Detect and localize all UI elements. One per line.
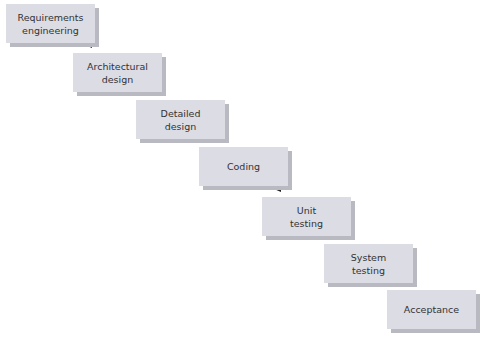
- stage-label: Unit testing: [290, 204, 323, 230]
- stage-box: Requirements engineering: [6, 4, 95, 43]
- stage-box: Architectural design: [73, 53, 162, 92]
- stage-label: Architectural design: [87, 60, 148, 86]
- stage-label: Requirements engineering: [17, 11, 83, 37]
- stage-label: Detailed design: [161, 107, 201, 133]
- stage-box: Detailed design: [136, 100, 225, 139]
- stage-label: Coding: [227, 160, 260, 173]
- stage-detailed-design: Detailed design: [136, 100, 225, 139]
- stage-label: System testing: [351, 251, 386, 277]
- stage-box: System testing: [324, 244, 413, 283]
- stage-architectural-design: Architectural design: [73, 53, 162, 92]
- stage-coding: Coding: [199, 147, 288, 186]
- stage-box: Unit testing: [262, 197, 351, 236]
- stage-acceptance: Acceptance: [387, 290, 476, 329]
- stage-label: Acceptance: [404, 303, 459, 316]
- stage-requirements-engineering: Requirements engineering: [6, 4, 95, 43]
- stage-unit-testing: Unit testing: [262, 197, 351, 236]
- stage-box: Coding: [199, 147, 288, 186]
- stage-box: Acceptance: [387, 290, 476, 329]
- stage-system-testing: System testing: [324, 244, 413, 283]
